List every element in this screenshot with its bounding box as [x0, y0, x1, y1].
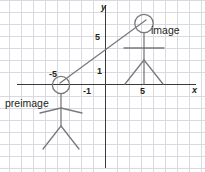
image-label: image	[151, 25, 180, 36]
x-tick-negative-5: -5	[49, 70, 57, 79]
x-tick-5: 5	[140, 87, 145, 96]
coordinate-plane-diagram: y x 5 1 -1 -5 5 image preimage	[0, 0, 205, 172]
y-axis-label: y	[101, 3, 106, 12]
x-tick-negative-1: -1	[83, 87, 91, 96]
preimage-label: preimage	[5, 98, 49, 109]
y-tick-5: 5	[95, 33, 100, 42]
x-axis-label: x	[192, 86, 197, 95]
y-tick-1: 1	[97, 67, 102, 76]
preimage-figure	[40, 76, 82, 149]
